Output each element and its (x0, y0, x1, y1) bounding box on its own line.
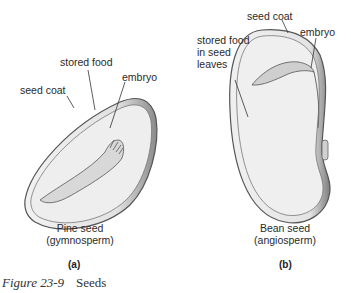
panel-a-name-line1: Pine seed (40, 222, 120, 234)
label-a-embryo: embryo (122, 71, 157, 83)
panel-a-tag: (a) (68, 259, 80, 270)
panel-a-name-line2: (gymnosperm) (40, 234, 120, 246)
panel-b-name: Bean seed (angiosperm) (245, 222, 325, 246)
label-a-stored-food: stored food (60, 56, 113, 68)
label-b-embryo: embryo (300, 26, 335, 38)
figure-caption: Figure 23-9Seeds (2, 275, 106, 291)
panel-a-name: Pine seed (gymnosperm) (40, 222, 120, 246)
panel-b-name-line2: (angiosperm) (245, 234, 325, 246)
panel-b-name-line1: Bean seed (245, 222, 325, 234)
label-b-stored-food-line3: leaves (197, 58, 250, 70)
figure-number: Figure 23-9 (2, 275, 64, 290)
seeds-illustration (0, 0, 351, 293)
figure-title: Seeds (76, 275, 106, 290)
panel-b-tag: (b) (279, 259, 292, 270)
label-a-seed-coat: seed coat (20, 84, 66, 96)
label-b-stored-food-line2: in seed (197, 46, 250, 58)
label-b-stored-food-line1: stored food (197, 34, 250, 46)
label-b-stored-food: stored food in seed leaves (197, 34, 250, 70)
label-b-seed-coat: seed coat (247, 10, 293, 22)
